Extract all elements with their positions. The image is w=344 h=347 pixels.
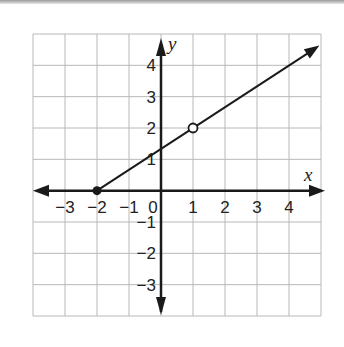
closed-point [93, 186, 102, 195]
tick-labels: −3−2−1012344321−1−2−3 [55, 56, 293, 294]
ray-arrow-icon [304, 46, 320, 59]
x-axis-arrow-right-icon [309, 185, 325, 197]
plot-series [93, 46, 320, 196]
axes [33, 38, 325, 315]
y-axis-arrow-up-icon [156, 38, 166, 56]
y-tick-label: −1 [137, 213, 156, 232]
grid [33, 34, 321, 316]
y-axis-label: y [166, 33, 177, 54]
y-tick-label: 3 [147, 88, 156, 107]
x-axis-arrow-left-icon [33, 185, 49, 197]
y-tick-label: −3 [137, 276, 156, 295]
x-tick-label: −3 [55, 198, 74, 217]
y-tick-label: −2 [137, 244, 156, 263]
x-tick-label: 2 [220, 198, 229, 217]
y-tick-label: 4 [147, 56, 156, 75]
x-tick-label: −2 [87, 198, 106, 217]
x-tick-label: 1 [188, 198, 197, 217]
y-tick-label: 2 [147, 119, 156, 138]
y-axis-arrow-down-icon [156, 297, 166, 315]
x-axis-label: x [303, 164, 313, 185]
open-point [189, 124, 198, 133]
coordinate-plane: −3−2−1012344321−1−2−3 x y [0, 0, 344, 347]
x-tick-label: 3 [252, 198, 261, 217]
x-tick-label: 4 [284, 198, 293, 217]
